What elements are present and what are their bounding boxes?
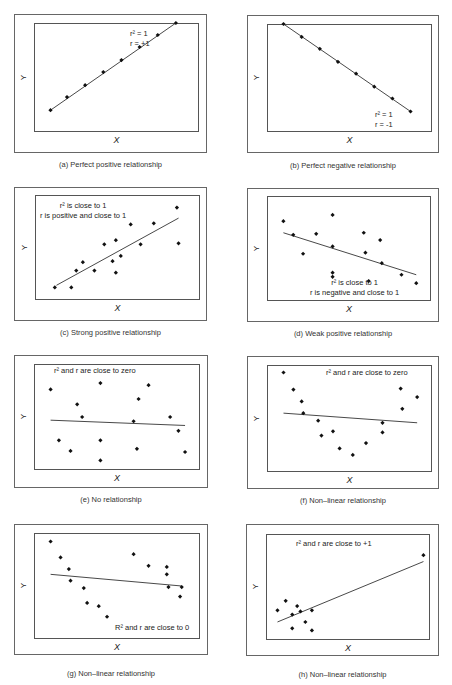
data-point-marker — [301, 252, 305, 256]
data-point-marker — [98, 438, 102, 442]
x-axis-label: X — [347, 475, 353, 485]
data-point-marker — [364, 441, 368, 445]
y-axis-label: Y — [20, 244, 29, 249]
data-point-marker — [166, 585, 170, 589]
panel-caption: (g) Non–linear relationship — [67, 669, 155, 678]
x-axis-label: X — [114, 473, 120, 483]
regression-line — [277, 562, 423, 622]
data-point-marker — [310, 608, 314, 612]
annotation-line-1: r² and r are close to +1 — [296, 539, 372, 549]
data-point-marker — [281, 370, 285, 374]
x-axis-label: X — [114, 642, 120, 652]
data-point-marker — [176, 429, 180, 433]
data-point-marker — [351, 453, 355, 457]
data-point-marker — [53, 285, 57, 289]
data-point-marker — [114, 271, 118, 275]
data-point-marker — [82, 586, 86, 590]
data-point-marker — [415, 395, 419, 399]
annotation-line-2: r = +1 — [130, 39, 150, 49]
panel-caption: (h) Non–linear relationship — [299, 670, 387, 679]
data-point-marker — [290, 626, 294, 630]
scatter-plot — [267, 24, 432, 132]
data-point-marker — [400, 407, 404, 411]
data-point-marker — [146, 564, 150, 568]
correlation-annotation: r² = 1r = +1 — [130, 29, 150, 49]
data-point-marker — [300, 399, 304, 403]
y-axis-label: Y — [19, 74, 28, 79]
panel-caption: (a) Perfect positive relationship — [59, 160, 162, 169]
annotation-line-1: r² is close to 1 — [40, 201, 126, 211]
data-point-marker — [303, 620, 307, 624]
data-point-marker — [414, 281, 418, 285]
data-point-marker — [363, 251, 367, 255]
y-axis-label: Y — [19, 583, 28, 588]
data-point-marker — [331, 213, 335, 217]
y-axis-label: Y — [252, 415, 261, 420]
panel-caption: (d) Weak positive relationship — [294, 329, 392, 338]
scatter-plot — [267, 365, 432, 472]
correlation-annotation: r² and r are close to zero — [326, 368, 408, 378]
data-point-marker — [101, 70, 105, 74]
data-point-marker — [110, 259, 114, 263]
data-point-marker — [175, 206, 179, 210]
annotation-line-2: r is positive and close to 1 — [40, 211, 126, 221]
data-point-marker — [362, 231, 366, 235]
data-point-marker — [57, 438, 61, 442]
x-axis-label: X — [347, 135, 353, 145]
panel-caption: (f) Non–linear relationship — [300, 496, 386, 505]
panel-caption: (b) Perfect negative relationship — [290, 161, 396, 170]
data-point-marker — [68, 449, 72, 453]
data-point-marker — [168, 415, 172, 419]
data-point-marker — [132, 552, 136, 556]
data-point-marker — [178, 595, 182, 599]
annotation-line-1: r² = 1 — [375, 110, 393, 120]
data-point-marker — [98, 381, 102, 385]
data-point-marker — [310, 628, 314, 632]
data-point-marker — [399, 273, 403, 277]
data-point-marker — [378, 238, 382, 242]
data-point-marker — [68, 579, 72, 583]
data-point-marker — [98, 458, 102, 462]
y-axis-label: Y — [19, 414, 28, 419]
data-point-marker — [75, 402, 79, 406]
x-axis-label: X — [115, 303, 121, 313]
data-point-marker — [97, 604, 101, 608]
annotation-line-1: r² = 1 — [130, 29, 150, 39]
data-point-marker — [92, 269, 96, 273]
data-point-marker — [399, 386, 403, 390]
x-axis-label: X — [114, 135, 120, 145]
data-point-marker — [319, 434, 323, 438]
data-point-marker — [165, 565, 169, 569]
data-point-marker — [331, 429, 335, 433]
scatter-plot — [34, 364, 200, 470]
correlation-annotation: r² and r are close to zero — [54, 366, 136, 376]
data-point-marker — [139, 242, 143, 246]
data-point-marker — [49, 539, 53, 543]
data-point-marker — [105, 615, 109, 619]
data-point-marker — [119, 254, 123, 258]
data-point-marker — [114, 238, 118, 242]
data-point-marker — [291, 388, 295, 392]
data-point-marker — [65, 95, 69, 99]
y-axis-label: Y — [252, 245, 261, 250]
data-point-marker — [81, 260, 85, 264]
annotation-line-1: r² and r are close to zero — [54, 366, 136, 376]
data-point-marker — [338, 446, 342, 450]
correlation-annotation: r² is close to 1r is positive and close … — [40, 201, 126, 221]
regression-line — [51, 420, 185, 425]
data-point-marker — [314, 232, 318, 236]
data-point-marker — [49, 387, 53, 391]
correlation-annotation: r² = 1r = -1 — [375, 110, 393, 130]
data-point-marker — [331, 271, 335, 275]
data-point-marker — [284, 599, 288, 603]
annotation-line-1: r² and r are close to zero — [326, 368, 408, 378]
annotation-line-2: r = -1 — [375, 120, 393, 130]
data-point-marker — [275, 608, 279, 612]
data-point-marker — [380, 421, 384, 425]
data-point-marker — [74, 269, 78, 273]
scatter-plot — [266, 534, 430, 640]
data-point-marker — [67, 567, 71, 571]
data-point-marker — [135, 447, 139, 451]
annotation-line-1: R² and r are close to 0 — [115, 623, 189, 633]
data-point-marker — [129, 222, 133, 226]
